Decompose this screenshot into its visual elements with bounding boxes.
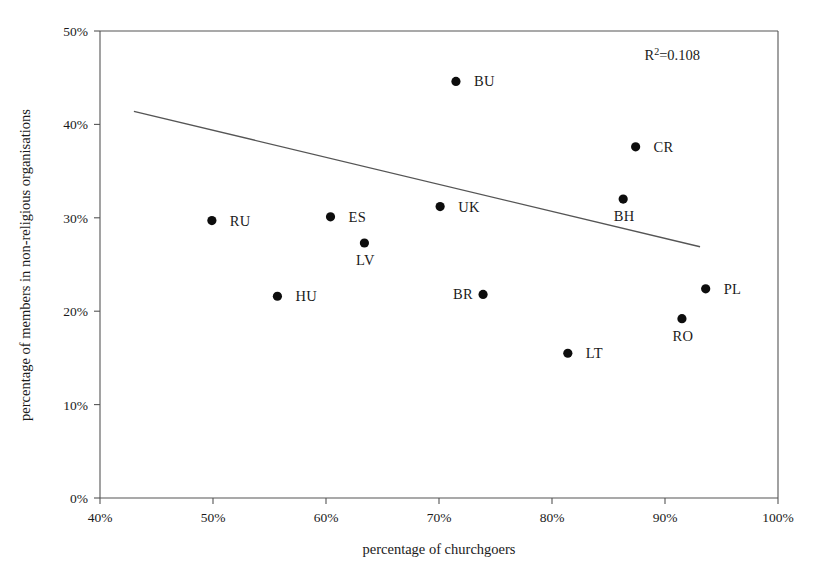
y-tick-label: 20% <box>63 304 88 319</box>
data-point-label-cr: CR <box>654 139 674 155</box>
data-point-label-hu: HU <box>295 288 317 304</box>
x-tick-label: 50% <box>201 510 226 525</box>
x-tick-label: 80% <box>540 510 565 525</box>
regression-trend-line <box>134 111 700 246</box>
data-point-label-lv: LV <box>356 252 375 268</box>
y-tick-label: 50% <box>63 24 88 39</box>
data-point-label-es: ES <box>349 209 367 225</box>
data-point-lt <box>563 349 572 358</box>
y-axis-title: percentage of members in non-religious o… <box>17 109 33 421</box>
scatter-chart-figure: 40%50%60%70%80%90%100% 0%10%20%30%40%50%… <box>0 0 824 584</box>
data-point-ru <box>207 216 216 225</box>
x-tick-label: 40% <box>88 510 113 525</box>
r-squared-annotation: R2=0.108 <box>645 46 700 63</box>
data-point-cr <box>631 142 640 151</box>
y-tick-label: 0% <box>70 491 88 506</box>
y-axis-ticks-group: 0%10%20%30%40%50% <box>63 24 100 506</box>
y-tick-label: 30% <box>63 211 88 226</box>
data-point-bu <box>451 77 460 86</box>
axes-group <box>100 31 778 498</box>
x-axis-title: percentage of churchgoers <box>363 541 516 557</box>
x-tick-label: 100% <box>762 510 794 525</box>
x-tick-label: 70% <box>427 510 452 525</box>
y-tick-label: 40% <box>63 117 88 132</box>
data-point-br <box>478 290 487 299</box>
scatter-plot-svg: 40%50%60%70%80%90%100% 0%10%20%30%40%50%… <box>0 0 824 584</box>
data-point-label-bh: BH <box>614 208 635 224</box>
trend-line-group <box>134 111 700 246</box>
data-point-uk <box>436 202 445 211</box>
data-point-label-lt: LT <box>586 345 603 361</box>
x-tick-label: 90% <box>653 510 678 525</box>
data-point-label-bu: BU <box>474 73 495 89</box>
r-squared-value: =0.108 <box>659 47 700 63</box>
data-point-bh <box>619 195 628 204</box>
data-point-label-br: BR <box>453 286 473 302</box>
data-point-label-ru: RU <box>230 213 251 229</box>
x-tick-label: 60% <box>314 510 339 525</box>
data-point-es <box>326 212 335 221</box>
data-point-label-ro: RO <box>673 328 694 344</box>
data-point-hu <box>273 292 282 301</box>
data-point-ro <box>677 314 686 323</box>
data-point-lv <box>360 238 369 247</box>
data-point-pl <box>701 284 710 293</box>
r-squared-base: R <box>645 47 655 63</box>
data-points-group: RUHUESLVUKBUBRLTBHCRROPL <box>207 73 741 361</box>
y-tick-label: 10% <box>63 398 88 413</box>
data-point-label-pl: PL <box>724 281 742 297</box>
x-axis-ticks-group: 40%50%60%70%80%90%100% <box>88 498 794 525</box>
data-point-label-uk: UK <box>458 199 480 215</box>
